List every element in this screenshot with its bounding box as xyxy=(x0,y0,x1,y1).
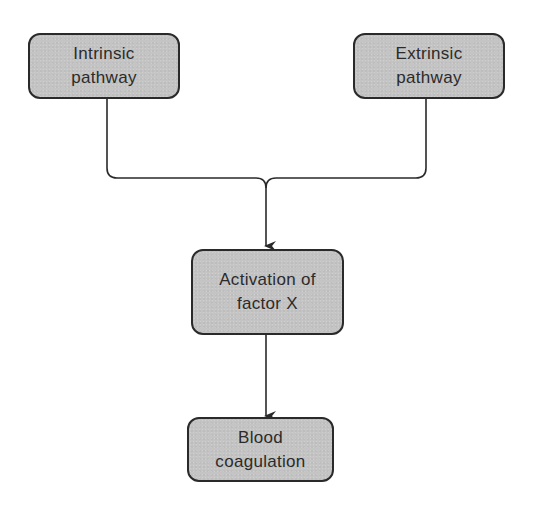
node-label-line1: Extrinsic xyxy=(396,42,463,66)
node-extrinsic-pathway: Extrinsic pathway xyxy=(353,33,505,99)
edge-intrinsic-to-junction xyxy=(107,98,266,188)
node-label-line2: coagulation xyxy=(215,450,305,474)
node-label-line1: Activation of xyxy=(219,268,316,292)
edge-extrinsic-to-junction xyxy=(266,98,426,188)
node-blood-coagulation: Blood coagulation xyxy=(187,417,334,482)
node-label-line2: pathway xyxy=(396,66,463,90)
node-label-line2: pathway xyxy=(71,66,136,90)
node-label-line1: Blood xyxy=(215,426,305,450)
node-label-line1: Intrinsic xyxy=(71,42,136,66)
node-activation-factor-x: Activation of factor X xyxy=(191,249,344,335)
node-label-line2: factor X xyxy=(219,292,316,316)
node-intrinsic-pathway: Intrinsic pathway xyxy=(28,33,180,99)
